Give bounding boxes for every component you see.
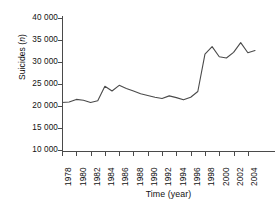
y-tick-label: 20 000 — [14, 102, 58, 110]
y-tick-label: 30 000 — [14, 58, 58, 66]
x-tick-label: 1990 — [151, 167, 159, 186]
x-tick-label: 1984 — [108, 167, 116, 186]
x-tick-label: 1992 — [165, 167, 173, 186]
x-tick-label: 1978 — [65, 167, 73, 186]
x-tick-label: 2000 — [223, 167, 231, 186]
y-tick-mark — [58, 106, 62, 107]
y-tick-mark — [58, 62, 62, 63]
y-tick-mark — [58, 40, 62, 41]
suicides-line-chart: Suicides (n) 40 00035 00030 00025 00020 … — [0, 0, 279, 205]
x-axis-title: Time (year) — [62, 189, 275, 199]
y-tick-mark — [58, 18, 62, 19]
y-tick-mark — [58, 128, 62, 129]
x-tick-label: 1986 — [122, 167, 130, 186]
x-tick-label: 1998 — [208, 167, 216, 186]
y-axis-tick-labels: 40 00035 00030 00025 00020 00015 00010 0… — [14, 0, 58, 205]
x-axis-tick-labels: 1978198019821984198619881990199219941996… — [62, 156, 275, 190]
y-tick-label: 15 000 — [14, 124, 58, 132]
plot-area — [62, 18, 273, 150]
y-tick-label: 25 000 — [14, 80, 58, 88]
x-tick-label: 1994 — [180, 167, 188, 186]
x-tick-label: 2002 — [237, 167, 245, 186]
y-tick-label: 10 000 — [14, 146, 58, 154]
y-tick-mark — [58, 150, 62, 151]
y-tick-mark — [58, 84, 62, 85]
suicides-series-line — [62, 18, 273, 150]
x-tick-label: 1996 — [194, 167, 202, 186]
x-tick-label: 2004 — [251, 167, 259, 186]
y-tick-label: 35 000 — [14, 36, 58, 44]
x-tick-label: 1982 — [94, 167, 102, 186]
x-tick-label: 1980 — [80, 167, 88, 186]
y-tick-label: 40 000 — [14, 14, 58, 22]
x-tick-label: 1988 — [137, 167, 145, 186]
